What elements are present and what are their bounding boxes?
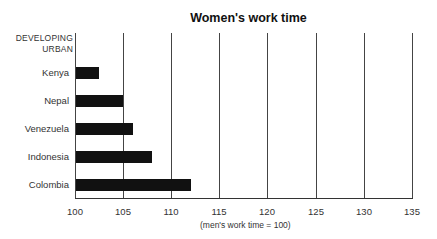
bar [76,179,191,191]
category-label: Indonesia [28,151,69,162]
gridline-115 [219,33,220,198]
gridline-130 [364,33,365,198]
category-label: Kenya [42,67,69,78]
gridline-110 [171,33,172,198]
bar [76,95,123,107]
x-tick-label: 120 [252,206,282,217]
gridline-135 [412,33,413,198]
x-axis [75,198,413,199]
bar [76,67,99,79]
x-axis-label: (men's work time = 100) [200,220,291,230]
x-tick-label: 125 [301,206,331,217]
plot-area: Kenya Nepal Venezuela Indonesia Colombia… [0,0,437,239]
bar [76,123,133,135]
category-label: Venezuela [25,123,69,134]
x-tick-label: 130 [349,206,379,217]
category-label: Colombia [29,179,69,190]
gridline-120 [267,33,268,198]
x-tick-label: 135 [397,206,427,217]
x-tick-label: 100 [60,206,90,217]
gridline-125 [316,33,317,198]
x-tick-label: 105 [108,206,138,217]
x-tick-label: 115 [204,206,234,217]
x-tick-label: 110 [156,206,186,217]
category-label: Nepal [44,95,69,106]
gridline-105 [123,33,124,198]
gridline-100 [75,33,76,198]
bar [76,151,152,163]
